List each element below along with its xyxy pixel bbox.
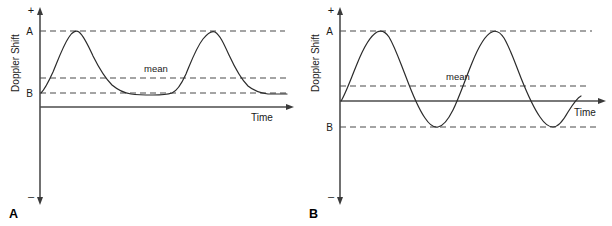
panel-b-y-axis-arrow-down (337, 197, 343, 205)
panel-a-y-axis-title: Doppler Shift (10, 34, 21, 92)
panel-b-trough-label: B (326, 122, 333, 133)
panel-a: Doppler Shift + – A B mean (10, 4, 294, 205)
panel-a-y-axis-arrow-up (37, 7, 43, 15)
panel-b-peak-label: A (326, 26, 333, 37)
panel-b-y-axis-title: Doppler Shift (310, 34, 321, 92)
panel-a-x-axis-title: Time (251, 112, 273, 123)
panel-a-x-axis-arrow (286, 104, 294, 110)
panel-a-positive-sign: + (28, 4, 34, 16)
panel-b-negative-sign: – (328, 190, 335, 202)
panel-a-y-axis-arrow-down (37, 197, 43, 205)
panel-b-positive-sign: + (328, 4, 334, 16)
panel-a-letter: A (9, 207, 18, 221)
panel-a-trough-label: B (26, 88, 33, 99)
panel-b: Doppler Shift + – A B mean (310, 4, 606, 205)
panel-a-mean-label: mean (144, 63, 168, 74)
panel-b-x-axis-title: Time (574, 107, 596, 118)
panel-a-peak-label: A (26, 26, 33, 37)
doppler-waveform-figure: Doppler Shift + – A B mean Doppler Shift… (0, 0, 612, 226)
panel-b-y-axis-arrow-up (337, 7, 343, 15)
panel-a-negative-sign: – (28, 190, 35, 202)
panel-b-x-axis-arrow (598, 98, 606, 104)
panel-b-letter: B (309, 207, 318, 221)
figure-canvas: Doppler Shift + – A B mean Doppler Shift… (0, 0, 612, 226)
